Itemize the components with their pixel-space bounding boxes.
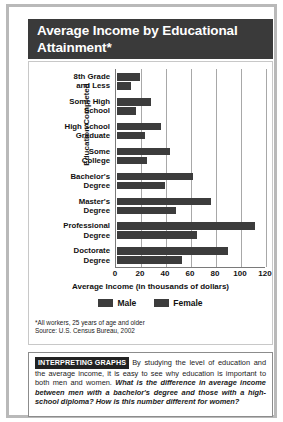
bar-female-0 [117,82,131,90]
bar-male-7 [117,247,228,255]
x-tick-label-60: 60 [177,269,203,278]
footnote-source: Source: U.S. Census Bureau, 2002 [35,327,265,335]
interpreting-graphs-box: INTERPRETING GRAPHSBy studying the level… [28,352,273,417]
figure-title-bar: Average Income by Educational Attainment… [28,19,273,59]
x-tick-label-80: 80 [202,269,228,278]
bar-female-3 [117,157,147,165]
page-title: Average Income by Educational Attainment… [37,23,264,56]
category-label-6: ProfessionalDegree [29,221,110,239]
category-label-1: Some HighSchool [29,97,110,115]
figure-frame: Average Income by Educational Attainment… [6,4,277,418]
plot-inner [115,69,265,268]
x-tick-label-120: 120 [252,269,278,278]
bar-male-4 [117,173,193,181]
legend-label-female: Female [173,298,202,308]
footnote-workers: *All workers, 25 years of age and older [35,319,265,327]
plot-area [115,69,265,268]
category-label-2: High SchoolGraduate [29,122,110,140]
x-tick-label-0: 0 [102,269,128,278]
interpreting-graphs-body: INTERPRETING GRAPHSBy studying the level… [35,357,266,407]
legend-item-male: Male [98,298,136,308]
figure-page: Average Income by Educational Attainment… [0,0,283,422]
chart-card: Education Completed 8th Gradeand LessSom… [28,61,273,345]
legend-item-female: Female [154,298,202,308]
bar-male-2 [117,123,161,131]
category-label-7: DoctorateDegree [29,246,110,264]
bar-male-1 [117,98,151,106]
chart-legend: Male Female [29,298,272,308]
bar-female-2 [117,132,145,140]
bar-female-5 [117,207,176,215]
x-tick-label-20: 20 [127,269,153,278]
bar-female-4 [117,182,165,190]
category-label-5: Master'sDegree [29,197,110,215]
chart-notes: *All workers, 25 years of age and older … [35,319,265,336]
legend-swatch-male [98,299,113,307]
category-label-4: Bachelor'sDegree [29,172,110,190]
category-labels: 8th Gradeand LessSome HighSchoolHigh Sch… [29,69,113,268]
bar-female-1 [117,107,136,115]
category-label-0: 8th Gradeand Less [29,72,110,90]
interpreting-graphs-tag: INTERPRETING GRAPHS [35,357,129,369]
bar-male-6 [117,222,255,230]
bar-series [116,69,265,267]
x-axis-ticks: 020406080100120 [115,269,275,281]
category-label-3: SomeCollege [29,147,110,165]
legend-label-male: Male [117,298,136,308]
bar-male-5 [117,198,211,206]
bar-male-0 [117,73,140,81]
x-tick-label-40: 40 [152,269,178,278]
bar-male-3 [117,148,170,156]
bar-female-6 [117,231,197,239]
x-axis-title: Average Income (in thousands of dollars) [29,282,272,291]
legend-swatch-female [154,299,169,307]
figure-inner: Average Income by Educational Attainment… [20,15,281,421]
bar-female-7 [117,256,182,264]
x-tick-label-100: 100 [227,269,253,278]
gridline-120 [266,69,267,267]
